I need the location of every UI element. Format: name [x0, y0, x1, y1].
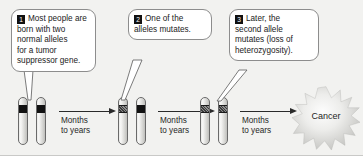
callout-step-3: 3 Later, the second allele mutates (loss… — [229, 9, 319, 61]
figure-canvas: 1 Most people are born with two normal a… — [0, 0, 363, 156]
callout-badge-2: 2 — [134, 15, 142, 24]
callout-badge-3: 3 — [235, 15, 243, 24]
callout-text-3: Later, the second allele mutates (loss o… — [235, 14, 313, 56]
callout-text-1: Most people are born with two normal all… — [17, 14, 90, 67]
callout-text-2: One of the alleles mutates. — [134, 14, 206, 35]
callout-step-1: 1 Most people are born with two normal a… — [11, 9, 96, 72]
callout-badge-1: 1 — [17, 15, 25, 24]
callout-step-2: 2 One of the alleles mutates. — [128, 9, 212, 40]
